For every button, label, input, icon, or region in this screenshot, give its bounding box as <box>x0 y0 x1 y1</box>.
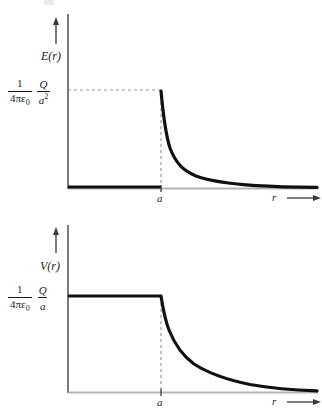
efield-curve-outside <box>161 91 317 187</box>
potential-coefficient-denominator-text: 4πε <box>10 298 26 310</box>
efield-plot-panel: E(r) 1 4πε0 Q a2 a r <box>0 0 322 205</box>
efield-value-label: 1 4πε0 Q a2 <box>8 78 50 107</box>
potential-quantity-denominator-text: a <box>40 300 46 312</box>
potential-tick-label-a: a <box>157 397 163 408</box>
potential-x-axis-label: r <box>272 396 276 407</box>
efield-quantity-fraction: Q a2 <box>37 79 51 107</box>
efield-y-axis-label: E(r) <box>41 50 61 62</box>
efield-coefficient-fraction: 1 4πε0 <box>8 78 32 107</box>
efield-quantity-denominator: a2 <box>37 91 51 106</box>
efield-x-axis-arrow-head <box>313 195 321 201</box>
efield-x-axis-label: r <box>272 192 276 203</box>
efield-coefficient-numerator: 1 <box>15 78 25 91</box>
efield-quantity-numerator: Q <box>37 79 49 92</box>
efield-coefficient-denominator-text: 4πε <box>10 92 26 104</box>
efield-y-axis-arrow-head <box>53 17 59 25</box>
potential-value-label: 1 4πε0 Q a <box>8 284 49 313</box>
potential-y-axis-label: V(r) <box>40 260 60 272</box>
efield-coefficient-denominator-subscript: 0 <box>26 98 30 107</box>
efield-tick-label-a: a <box>157 193 163 204</box>
potential-quantity-denominator: a <box>38 297 48 312</box>
potential-y-axis-arrow-head <box>53 227 59 235</box>
potential-quantity-numerator: Q <box>37 285 49 298</box>
efield-quantity-denominator-exponent: 2 <box>44 92 48 101</box>
potential-quantity-fraction: Q a <box>37 285 49 313</box>
potential-coefficient-numerator: 1 <box>15 284 25 297</box>
potential-coefficient-fraction: 1 4πε0 <box>8 284 32 313</box>
potential-coefficient-denominator: 4πε0 <box>8 297 32 314</box>
potential-x-axis-arrow-head <box>313 399 321 405</box>
efield-coefficient-denominator: 4πε0 <box>8 91 32 108</box>
potential-coefficient-denominator-subscript: 0 <box>26 304 30 313</box>
potential-curve-outside <box>161 296 317 391</box>
potential-plot-panel: V(r) 1 4πε0 Q a a r <box>0 205 322 410</box>
